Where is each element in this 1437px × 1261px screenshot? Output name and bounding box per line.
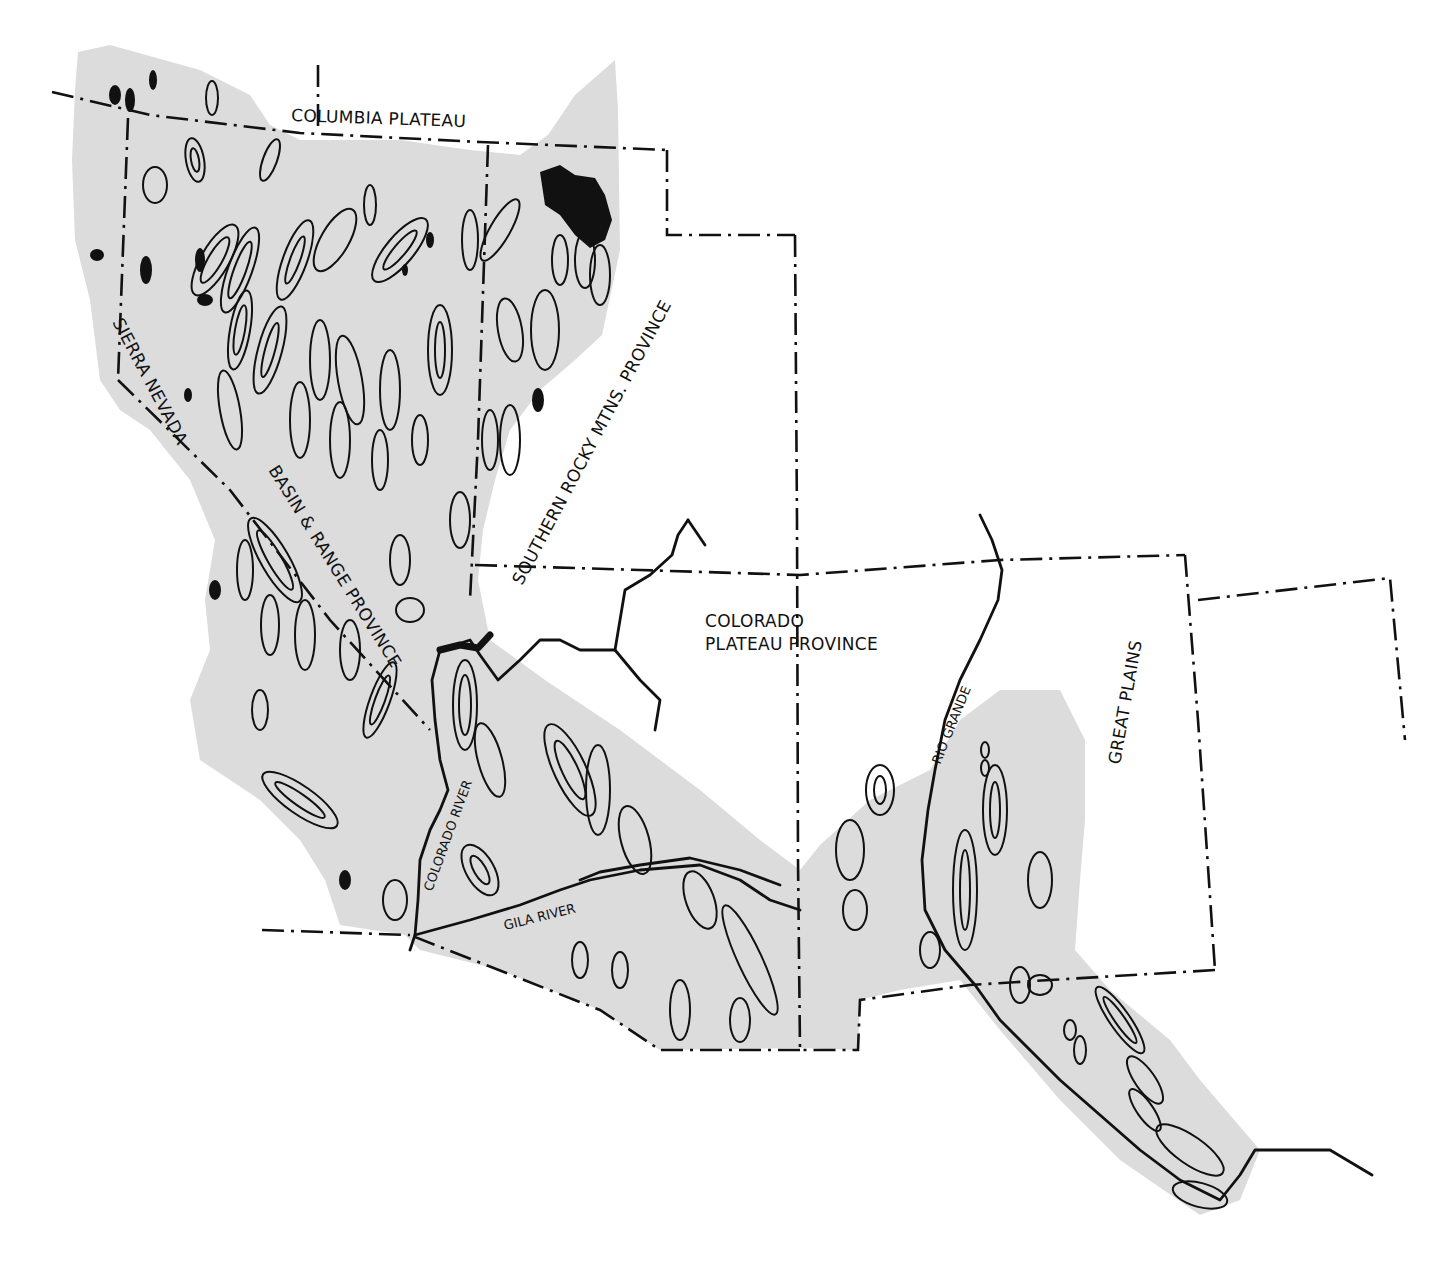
province-map: COLUMBIA PLATEAU SIERRA NEVADA BASIN & R… (0, 0, 1437, 1261)
label-columbia-plateau: COLUMBIA PLATEAU (291, 105, 467, 131)
label-colorado-plateau-line1: COLORADO (705, 611, 804, 631)
colorado-river-branch (615, 650, 660, 730)
new-mexico-east-boundary (1185, 555, 1215, 970)
four-corners-line (475, 555, 1185, 575)
label-colorado-plateau-line2: PLATEAU PROVINCE (705, 634, 878, 654)
wyoming-notch (667, 150, 795, 235)
label-great-plains: GREAT PLAINS (1104, 638, 1146, 765)
texas-panhandle-boundary (1198, 578, 1405, 740)
colorado-river-upper-fork (688, 520, 705, 545)
